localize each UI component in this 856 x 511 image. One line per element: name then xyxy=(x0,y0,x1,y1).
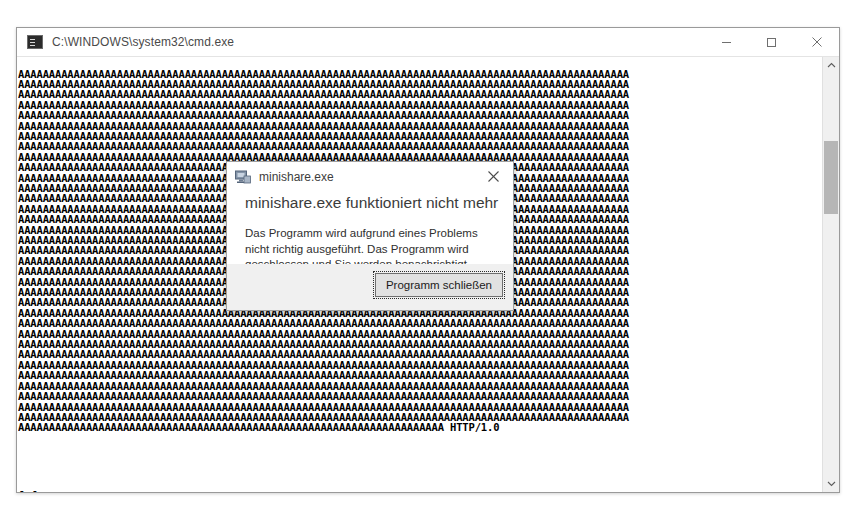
dialog-title: minishare.exe xyxy=(259,170,334,184)
console-output-text: [*]Connect to server... [*]Send buffer..… xyxy=(18,491,175,493)
application-icon xyxy=(235,170,251,185)
console-scrollbar[interactable] xyxy=(822,57,839,492)
scrollbar-thumb[interactable] xyxy=(824,141,838,214)
scrollbar-track[interactable] xyxy=(823,214,839,475)
error-dialog: minishare.exe minishare.exe funktioniert… xyxy=(226,161,514,311)
maximize-button[interactable] xyxy=(749,28,794,56)
window-controls xyxy=(704,28,839,56)
chevron-down-icon[interactable] xyxy=(823,475,839,492)
close-button[interactable] xyxy=(794,28,839,56)
dialog-close-button[interactable] xyxy=(473,162,513,191)
minimize-button[interactable] xyxy=(704,28,749,56)
dialog-title-bar[interactable]: minishare.exe xyxy=(227,162,513,192)
close-program-button[interactable]: Programm schließen xyxy=(375,273,503,297)
cmd-title-bar[interactable]: C:\WINDOWS\system32\cmd.exe xyxy=(17,28,839,57)
cmd-window-title: C:\WINDOWS\system32\cmd.exe xyxy=(52,35,234,49)
dialog-footer: Programm schließen xyxy=(227,264,513,310)
dialog-heading: minishare.exe funktioniert nicht mehr xyxy=(245,192,495,212)
chevron-up-icon[interactable] xyxy=(823,57,839,74)
cmd-console-icon xyxy=(27,35,43,49)
